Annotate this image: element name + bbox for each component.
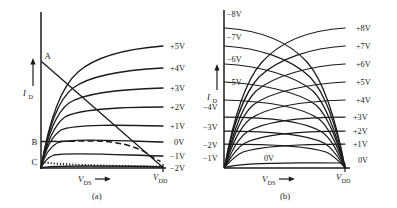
- panel-a-label-plus2v: +2V: [170, 103, 185, 112]
- panel-b-curve-minus3v: [225, 117, 346, 168]
- svg-text:DS: DS: [84, 179, 92, 186]
- panel-a-point-label-a: A: [45, 51, 52, 61]
- panel-b-curve-minus7v: [225, 46, 346, 168]
- panel-a-id-arrow: [30, 58, 35, 86]
- figure-container: A B C I D V DS V DD +5V +4V +3V +2V +1V …: [0, 0, 397, 208]
- panel-a-curve-plus4v: [41, 68, 163, 168]
- svg-text:DD: DD: [342, 177, 351, 184]
- panel-a-label-0v: 0V: [174, 138, 184, 147]
- panel-b-curve-plus7v: [225, 46, 346, 168]
- svg-text:I: I: [22, 88, 27, 98]
- panel-b-x-axis-label: V DS: [262, 174, 295, 186]
- svg-text:DD: DD: [159, 177, 168, 184]
- panel-b-label-plus5v: +5V: [356, 78, 371, 87]
- panel-a-point-label-c: C: [32, 157, 38, 167]
- panel-b-label-plus2v: +2V: [353, 127, 368, 136]
- panel-b-y-axis-label: I D: [206, 92, 218, 104]
- panel-a-curve-plus2v: [41, 107, 163, 168]
- panel-b-label-plus8v: +8V: [356, 24, 371, 33]
- panel-a-vdd-label: V DD: [153, 172, 168, 184]
- panel-b-label-plus1v: +1V: [353, 140, 368, 149]
- panel-b-label-minus4v: −4V: [203, 103, 218, 112]
- panel-b-curve-plus1v: [225, 144, 346, 168]
- panel-b-label-plus3v: +3V: [353, 113, 368, 122]
- panel-b-caption: (b): [280, 191, 290, 201]
- panel-b-label-minus3v: −3V: [203, 123, 218, 132]
- panel-b-label-minus2v: −2V: [203, 141, 218, 150]
- panel-b-label-minus8v: −8V: [227, 10, 242, 19]
- panel-a-y-axis-label: I D: [22, 88, 34, 100]
- panel-b-label-minus1v: −1V: [203, 154, 218, 163]
- panel-b-curve-0v: [225, 163, 346, 168]
- panel-b: I D V DS V DD −8V −7V −6V −5V −4V −3V −2…: [203, 10, 371, 201]
- panel-a-label-plus5v: +5V: [170, 42, 185, 51]
- panel-a-label-plus3v: +3V: [170, 84, 185, 93]
- svg-text:I: I: [206, 92, 211, 102]
- panel-a-label-plus1v: +1V: [170, 122, 185, 131]
- panel-a-label-minus1v: −1V: [170, 152, 185, 161]
- panel-a-label-minus2v: −2V: [170, 164, 185, 173]
- panel-b-vdd-label: V DD: [336, 172, 351, 184]
- panel-a-point-label-b: B: [32, 137, 38, 147]
- panel-b-curve-plus5v: [225, 82, 346, 168]
- panel-b-label-inner-0v: 0V: [264, 154, 274, 163]
- panel-b-id-arrow: [214, 64, 219, 90]
- panel-b-label-plus6v: +6V: [356, 60, 371, 69]
- panel-b-label-plus4v: +4V: [356, 96, 371, 105]
- panel-b-label-0v: 0V: [358, 156, 368, 165]
- panel-b-curve-plus3v: [225, 117, 346, 168]
- panel-a-dashed-load-curve: [42, 141, 161, 162]
- panel-b-label-minus5v: −5V: [227, 78, 242, 87]
- panel-a-caption: (a): [92, 191, 102, 201]
- panel-b-label-minus6v: −6V: [227, 55, 242, 64]
- panel-b-label-plus7v: +7V: [356, 42, 371, 51]
- svg-text:DS: DS: [268, 179, 276, 186]
- panel-b-curve-minus1v: [225, 144, 346, 168]
- panel-b-curve-minus5v: [225, 82, 346, 168]
- characteristics-figure: A B C I D V DS V DD +5V +4V +3V +2V +1V …: [0, 0, 397, 208]
- panel-a: A B C I D V DS V DD +5V +4V +3V +2V +1V …: [22, 12, 185, 201]
- panel-a-label-plus4v: +4V: [170, 64, 185, 73]
- panel-a-curve-plus1v: [41, 125, 163, 168]
- panel-b-label-minus7v: −7V: [227, 33, 242, 42]
- svg-text:D: D: [29, 93, 34, 100]
- panel-a-x-axis-label: V DS: [78, 174, 111, 186]
